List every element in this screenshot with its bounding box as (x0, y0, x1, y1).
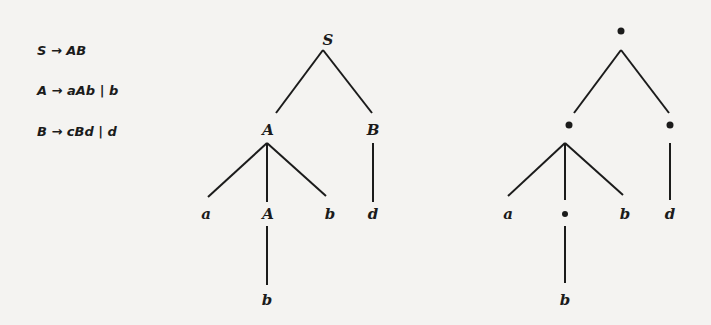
node-b: B (366, 121, 380, 139)
parse-tree: S A B a A b d b (201, 31, 379, 309)
edge-a-b (267, 143, 326, 196)
skeleton-left-dot (566, 122, 573, 129)
tree-diagrams: S A B a A b d b a b d b (0, 0, 711, 325)
skeleton-right-dot (667, 122, 674, 129)
skeleton-leaf-b: b (620, 205, 631, 223)
leaf-d: d (368, 205, 379, 223)
skeleton-inner-dot (562, 211, 568, 217)
edge-left-b (565, 143, 623, 195)
edge-a-a (208, 143, 267, 197)
skeleton-leaf-a: a (503, 205, 513, 223)
node-s: S (323, 31, 334, 49)
edge-s-a (276, 50, 323, 113)
edge-left-a (508, 143, 565, 196)
skeleton-root-dot (618, 28, 625, 35)
skeleton-leaf-d: d (665, 205, 676, 223)
leaf-a: a (201, 205, 211, 223)
edge-s-b (323, 50, 372, 113)
skeleton-tree: a b d b (503, 28, 676, 310)
node-inner-a: A (260, 205, 274, 223)
edge-root-right (621, 50, 669, 113)
edge-root-left (574, 50, 621, 113)
leaf-b: b (325, 205, 336, 223)
node-a: A (260, 121, 274, 139)
skeleton-leaf-inner-b: b (560, 291, 571, 309)
leaf-inner-b: b (262, 291, 273, 309)
